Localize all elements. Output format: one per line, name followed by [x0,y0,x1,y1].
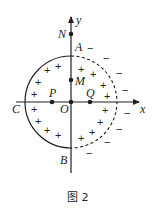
plus-sign: + [89,126,95,138]
point-m-label: M [74,74,86,88]
plus-sign: + [35,76,41,88]
plus-sign: + [35,115,41,127]
point-o-dot [69,100,74,105]
point-m-dot [69,78,74,83]
point-p-dot [50,100,55,105]
point-q-dot [88,100,93,105]
plus-sign: + [31,88,37,100]
plus-sign: + [78,63,84,75]
plus-sign: + [97,116,103,128]
plus-sign: + [44,124,50,136]
y-axis-label: y [75,13,82,27]
point-q-label: Q [86,86,95,100]
minus-sign: − [87,42,93,54]
point-n-dot [69,32,74,37]
minus-sign: − [116,67,122,79]
figure-caption: 图 2 [67,191,89,204]
plus-sign: + [90,68,96,80]
minus-sign: − [122,84,128,96]
minus-sign: − [103,52,109,64]
plus-sign: + [31,103,37,115]
minus-sign: − [116,123,122,135]
minus-sign: − [124,107,130,119]
plus-sign: + [104,90,110,102]
plus-sign: + [78,132,84,144]
minus-sign: − [104,136,110,148]
plus-sign: + [55,60,61,72]
point-n-label: N [57,27,67,41]
point-a-label: A [74,40,83,54]
point-c-label: C [12,102,21,116]
plus-sign: + [55,129,61,141]
x-axis-label: x [139,102,146,116]
diagram: y x N A M P Q O C B + + + + + + + + + + … [0,0,155,214]
point-p-label: P [48,86,57,100]
plus-sign: + [102,104,108,116]
origin-label: O [60,102,69,116]
point-b-label: B [60,153,68,167]
plus-sign: + [44,64,50,76]
minus-sign: − [86,147,92,159]
